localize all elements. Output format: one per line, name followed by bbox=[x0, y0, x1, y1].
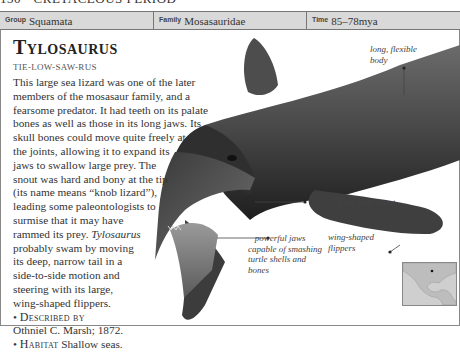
body-line: skull bones could move quite freely at bbox=[13, 131, 273, 145]
body-line: jaws to swallow large prey. The bbox=[13, 159, 273, 173]
entry-description: This large sea lizard was one of the lat… bbox=[13, 76, 273, 352]
body-line: leading some paleontologists to bbox=[13, 200, 273, 214]
body-line: its deep, narrow tail in a bbox=[13, 255, 273, 269]
callout-snout: long, slim snout bbox=[338, 197, 395, 208]
body-line: the joints, allowing it to expand its bbox=[13, 145, 273, 159]
callout-line-text: powerful jaws bbox=[255, 233, 306, 243]
fact-key: Habitat bbox=[20, 337, 59, 351]
info-label-group: Group bbox=[5, 16, 26, 23]
body-line: snout was hard and bony at the tip bbox=[13, 173, 273, 187]
body-line: (its name means “knob lizard”), bbox=[13, 186, 273, 200]
info-value-family: Mosasauridae bbox=[184, 15, 245, 27]
fact-value: Othniel C. Marsh; 1872. bbox=[13, 324, 273, 338]
fact-key: Described by bbox=[20, 310, 85, 324]
callout-line: wing-shaped bbox=[328, 232, 374, 243]
body-line: This large sea lizard was one of the lat… bbox=[13, 76, 273, 90]
body-line: probably swam by moving bbox=[13, 242, 273, 256]
callout-line: body bbox=[370, 55, 417, 66]
locator-map bbox=[402, 262, 457, 306]
body-line-text: rammed its prey. bbox=[13, 228, 89, 240]
body-line: surmise that it may have bbox=[13, 214, 273, 228]
callout-flippers: wing-shaped flippers bbox=[328, 232, 374, 253]
bullet: • bbox=[25, 0, 30, 6]
info-value-group: Squamata bbox=[29, 15, 72, 27]
fact-described-by: • Described by bbox=[13, 311, 273, 325]
callout-line: powerful jaws bbox=[248, 233, 322, 244]
callout-jaws: powerful jaws capable of smashing turtle… bbox=[248, 233, 322, 275]
callout-line: turtle shells and bbox=[248, 254, 322, 265]
callout-line: bones bbox=[248, 265, 322, 276]
callout-line: long, flexible bbox=[370, 44, 417, 55]
pronunciation: TIE-LOW-SAW-RUS bbox=[13, 62, 97, 72]
running-head: 130 • CRETACEOUS PERIOD bbox=[0, 0, 176, 5]
genus-name: Tylosaurus bbox=[91, 228, 140, 240]
callout-line: capable of smashing bbox=[248, 244, 322, 255]
fact-value: Shallow seas. bbox=[61, 338, 123, 350]
entry-title: Tylosaurus bbox=[13, 36, 118, 59]
section-title: CRETACEOUS PERIOD bbox=[34, 0, 177, 6]
info-label-family: Family bbox=[159, 16, 181, 23]
info-time: Time 85–78mya bbox=[307, 12, 460, 29]
fact-habitat: • Habitat Shallow seas. bbox=[13, 338, 273, 352]
body-line: side-to-side motion and bbox=[13, 269, 273, 283]
info-group: Group Squamata bbox=[0, 12, 154, 29]
callout-line: flippers bbox=[328, 243, 374, 254]
callout-line: long, slim snout bbox=[338, 197, 395, 208]
body-line: members of the mosasaur family, and a bbox=[13, 90, 273, 104]
body-line: steering with its large, bbox=[13, 283, 273, 297]
info-bar: Group Squamata Family Mosasauridae Time … bbox=[0, 11, 460, 30]
map-icon bbox=[403, 263, 456, 305]
info-family: Family Mosasauridae bbox=[154, 12, 307, 29]
page-number: 130 bbox=[0, 0, 21, 6]
body-line: bones as well as those in its long jaws.… bbox=[13, 117, 273, 131]
info-label-time: Time bbox=[312, 16, 328, 23]
body-line: fearsome predator. It had teeth on its p… bbox=[13, 104, 273, 118]
callout-body: long, flexible body bbox=[370, 44, 417, 65]
body-line: wing-shaped flippers. bbox=[13, 297, 273, 311]
body-line: rammed its prey. Tylosaurus bbox=[13, 228, 273, 242]
info-value-time: 85–78mya bbox=[331, 15, 377, 27]
